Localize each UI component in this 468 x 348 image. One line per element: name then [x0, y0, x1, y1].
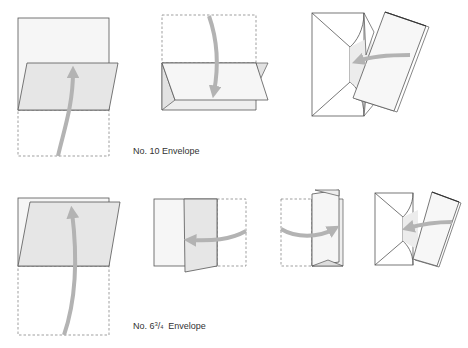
- no634-label-prefix: No. 6: [133, 321, 155, 331]
- no634-label-sub: 4: [160, 324, 163, 330]
- no10-label: No. 10 Envelope: [133, 146, 200, 156]
- letter-folding-diagram: [0, 0, 468, 348]
- no634-label-suffix: Envelope: [168, 321, 206, 331]
- no634-step1-fold-bottom-up: [18, 198, 120, 335]
- no634-step2-fold-right-left: [154, 199, 246, 272]
- no10-step3-insert-envelope: [312, 12, 429, 116]
- no634-step3-fold-left-right: [281, 190, 343, 266]
- no10-step1-fold-bottom-up: [18, 18, 118, 156]
- no634-label: No. 63/4 Envelope: [133, 321, 206, 331]
- no634-step4-insert-envelope: [375, 192, 461, 267]
- no10-step2-fold-top-down: [162, 15, 268, 110]
